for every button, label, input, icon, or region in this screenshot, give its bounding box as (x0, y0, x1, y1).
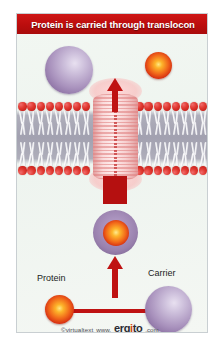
lipid-head-icon (144, 166, 152, 175)
lipid-tail (86, 154, 90, 167)
lipid-molecule (180, 137, 189, 175)
figure-root: Protein is carried through translocon (0, 0, 222, 343)
lipid-head-icon (46, 166, 54, 175)
lipid-molecule (82, 102, 91, 140)
watermark-brand: ergito (114, 322, 142, 333)
lipid-molecule (171, 102, 180, 140)
lipid-tail (32, 142, 36, 155)
lipid-molecule (82, 137, 91, 175)
lipid-head-icon (73, 166, 81, 175)
lipid-tail (59, 122, 63, 135)
lipid-tail (148, 154, 152, 167)
lipid-tail (158, 122, 162, 135)
lipid-molecule (54, 102, 63, 140)
label-carrier: Carrier (148, 268, 176, 278)
lipid-head-icon (199, 102, 207, 111)
lipid-molecule (199, 137, 208, 175)
lipid-molecule (63, 137, 72, 175)
lipid-molecule (63, 102, 72, 140)
lipid-tail (203, 142, 207, 155)
lipid-molecule (153, 102, 162, 140)
lipid-molecule (36, 137, 45, 175)
lipid-tail (22, 154, 26, 167)
lipid-head-icon (190, 102, 198, 111)
carrier-sphere-released (45, 46, 93, 94)
lipid-tail (77, 122, 81, 135)
arrow-transit-up (103, 176, 127, 216)
lipid-head-icon (27, 166, 35, 175)
page-title: Protein is carried through translocon (31, 19, 195, 30)
lipid-tail (49, 154, 53, 167)
lipid-molecule (18, 137, 27, 175)
lipid-tail (194, 154, 198, 167)
lipid-tail (86, 122, 90, 135)
arrow-exit-up (103, 78, 127, 112)
lipid-head-icon (190, 166, 198, 175)
protein-sphere-cargo (103, 220, 129, 246)
lipid-tail (185, 142, 189, 155)
lipid-tail (140, 142, 144, 155)
lipid-molecule (45, 137, 54, 175)
lipid-tail (41, 142, 45, 155)
lipid-tail (185, 122, 189, 135)
lipid-tail (68, 122, 72, 135)
lipid-head-icon (163, 166, 171, 175)
lipid-molecule (190, 102, 199, 140)
lipid-molecule (162, 137, 171, 175)
lipid-tail (140, 122, 144, 135)
lipid-tail (176, 122, 180, 135)
lipid-head-icon (18, 166, 26, 175)
lipid-molecule (153, 137, 162, 175)
lipid-tail (157, 154, 161, 167)
watermark-brand-post: to (133, 322, 143, 333)
lipid-head-icon (154, 166, 162, 175)
lipid-molecule (18, 102, 27, 140)
lipid-molecule (171, 137, 180, 175)
watermark-www: www. (96, 326, 111, 333)
lipid-head-icon (64, 102, 72, 111)
lipid-tail (77, 142, 81, 155)
lipid-head-icon (64, 166, 72, 175)
lipid-tail (158, 142, 162, 155)
lipid-tail (40, 154, 44, 167)
lipid-head-icon (73, 102, 81, 111)
lipid-tail (203, 154, 207, 167)
figure-title-bar: Protein is carried through translocon (17, 14, 208, 35)
lipid-tail (86, 142, 90, 155)
lipid-molecule (190, 137, 199, 175)
lipid-tail (77, 154, 81, 167)
lipid-head-icon (172, 166, 180, 175)
lipid-tail (176, 142, 180, 155)
watermark-brand-pre: erg (114, 322, 130, 333)
lipid-head-icon (82, 102, 90, 111)
lipid-molecule (54, 137, 63, 175)
lipid-molecule (73, 137, 82, 175)
lipid-tail (139, 154, 143, 167)
lipid-leaflet-bottom-right (135, 137, 208, 175)
lipid-head-icon (55, 166, 63, 175)
lipid-tail (176, 154, 180, 167)
arrow-shaft (103, 176, 127, 204)
lipid-tail (149, 122, 153, 135)
lipid-molecule (45, 102, 54, 140)
lipid-tail (31, 154, 35, 167)
watermark-tld: .com (145, 326, 158, 333)
lipid-tail (167, 122, 171, 135)
lipid-head-icon (46, 102, 54, 111)
lipid-head-icon (37, 166, 45, 175)
arrow-shaft (112, 90, 118, 112)
diagram-stage: Protein Carrier ©virtualtext www. ergito… (17, 34, 208, 333)
lipid-tail (41, 122, 45, 135)
lipid-tail (166, 154, 170, 167)
lipid-head-icon (82, 166, 90, 175)
lipid-tail (203, 122, 207, 135)
lipid-head-icon (18, 102, 26, 111)
lipid-molecule (73, 102, 82, 140)
lipid-head-icon (181, 166, 189, 175)
lipid-molecule (162, 102, 171, 140)
lipid-molecule (27, 137, 36, 175)
lipid-head-icon (144, 102, 152, 111)
arrow-shaft (112, 268, 118, 298)
arrow-load-up (103, 256, 127, 298)
lipid-tail (167, 142, 171, 155)
